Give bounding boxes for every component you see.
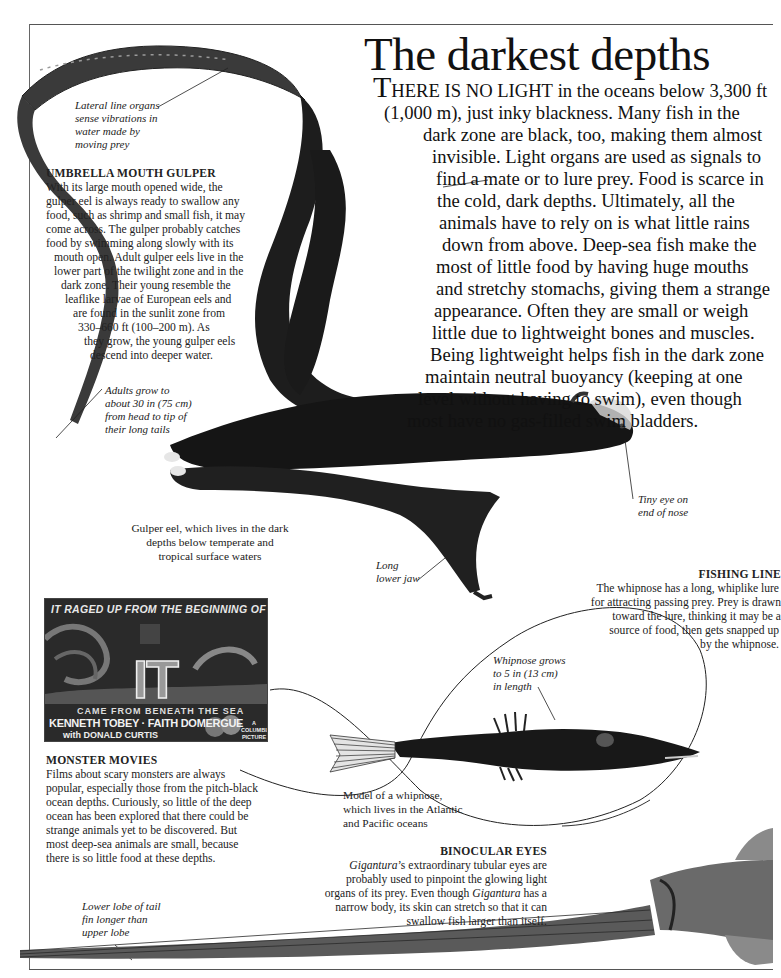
intro-line: appearance. Often they are small or weig… (434, 300, 748, 322)
body-line: popular, especially those from the pitch… (46, 782, 258, 796)
body-line: swallow fish larger than itself. (407, 915, 548, 929)
annotation-line: end of nose (638, 506, 688, 519)
body-line: for attracting passing prey. Prey is dra… (591, 596, 781, 610)
body-line: 330–660 ft (100–200 m). As (78, 321, 210, 335)
body-text: ’s extraordinary tubular eyes are (398, 859, 547, 872)
intro-line: little due to lightweight bones and musc… (432, 322, 755, 344)
drop-cap: T (373, 70, 391, 103)
caption-line: Model of a whipnose, (343, 788, 442, 802)
intro-line: the cold, dark depths. Ultimately, all t… (437, 190, 735, 212)
annotation-line: fin longer than (82, 913, 147, 926)
intro-line: level without having to swim), even thou… (418, 388, 742, 410)
poster-subtitle: CAME FROM BENEATH THE SEA (77, 706, 244, 716)
poster-costar: with DONALD CURTIS (63, 730, 158, 740)
body-line: narrow body, its skin can stretch so tha… (335, 901, 547, 915)
annotation-line: about 30 in (75 cm) (105, 397, 192, 410)
annotation-line: Lateral line organs (75, 99, 160, 112)
body-line: food by swimming along slowly with its (46, 237, 233, 251)
intro-line: invisible. Light organs are used as sign… (432, 146, 761, 168)
annotation-line: moving prey (75, 138, 129, 151)
body-line: mouth open. Adult gulper eels live in th… (54, 251, 243, 265)
annotation-line: sense vibrations in (75, 112, 158, 125)
annotation-line: Adults grow to (105, 384, 169, 397)
annotation-line: Lower lobe of tail (82, 900, 161, 913)
intro-line: THERE IS NO LIGHT in the oceans below 3,… (373, 72, 767, 102)
body-line: Gigantura’s extraordinary tubular eyes a… (349, 859, 547, 873)
body-line: probably used to pinpoint the glowing li… (346, 873, 547, 887)
body-line: are found in the sunlit zone from (73, 307, 225, 321)
movie-poster-image: IT RAGED UP FROM THE BEGINNING OF TIME I… (44, 598, 268, 742)
intro-line: and stretchy stomachs, giving them a str… (436, 278, 770, 300)
poster-tagline: IT RAGED UP FROM THE BEGINNING OF TIME (51, 603, 268, 615)
intro-text: in the oceans below 3,300 ft (553, 80, 767, 101)
annotation-line: upper lobe (82, 926, 129, 939)
body-line: The whipnose has a long, whiplike lure (596, 582, 779, 596)
intro-line: dark zone are black, too, making them al… (423, 124, 762, 146)
poster-stars: KENNETH TOBEY · FAITH DOMERGUE (49, 717, 243, 729)
binocular-box-heading: BINOCULAR EYES (440, 845, 547, 859)
annotation-line: Whipnose grows (493, 654, 566, 667)
intro-line: most of little food by having huge mouth… (436, 256, 748, 278)
body-text: has a (521, 887, 547, 900)
fishing-line-heading: FISHING LINE (698, 568, 781, 582)
body-line: most deep-sea animals are small, because (46, 838, 239, 852)
body-line: strange animals yet to be discovered. Bu… (46, 824, 237, 838)
annotation-line: Tiny eye on (638, 493, 688, 506)
caption-line: Gulper eel, which lives in the dark (110, 521, 310, 535)
body-line: With its large mouth opened wide, the (46, 181, 223, 195)
annotation-line: their long tails (105, 423, 170, 436)
species-name: Gigantura (472, 887, 520, 900)
poster-studio: A COLUMBIA PICTURE (241, 720, 267, 741)
whipnose-illustration (330, 712, 700, 781)
caption-line: which lives in the Atlantic (343, 802, 463, 816)
page-title: The darkest depths (364, 31, 710, 78)
body-line: Films about scary monsters are always (46, 768, 225, 782)
body-line: lower part of the twilight zone and in t… (54, 265, 243, 279)
body-line: dark zone. Their young resemble the (61, 279, 231, 293)
annotation-line: from head to tip of (105, 410, 186, 423)
body-line: descend into deeper water. (90, 349, 213, 363)
intro-line: Being lightweight helps fish in the dark… (430, 344, 764, 366)
body-line: they grow, the young gulper eels (84, 335, 235, 349)
body-line: source of food, then gets snapped up (609, 624, 779, 638)
caption-line: and Pacific oceans (343, 816, 428, 830)
body-line: gulper eel is always ready to swallow an… (46, 195, 240, 209)
intro-line: most have no gas-filled swim bladders. (407, 410, 698, 432)
species-name: Gigantura (349, 859, 397, 872)
annotation-line: Long (376, 559, 399, 572)
caption-line: depths below temperate and (110, 535, 310, 549)
gulper-box-heading: UMBRELLA MOUTH GULPER (46, 167, 216, 181)
body-line: toward the lure, thinking it may be a (612, 610, 781, 624)
body-text: organs of its prey. Even though (325, 887, 472, 900)
body-line: leaflike larvae of European eels and (65, 293, 231, 307)
body-line: food, such as shrimp and small fish, it … (46, 209, 245, 223)
intro-line: maintain neutral buoyancy (keeping at on… (425, 366, 743, 388)
annotation-line: to 5 in (13 cm) (493, 667, 558, 680)
body-line: organs of its prey. Even though Gigantur… (325, 887, 547, 901)
monster-box-heading: MONSTER MOVIES (46, 754, 157, 768)
poster-title: IT (133, 659, 177, 699)
body-line: ocean depths. Curiously, so little of th… (46, 796, 252, 810)
intro-line: find a mate or to lure prey. Food is sca… (436, 168, 764, 190)
intro-line: down from above. Deep-sea fish make the (442, 234, 756, 256)
body-line: there is so little food at these depths. (46, 852, 215, 866)
intro-line: (1,000 m), just inky blackness. Many fis… (384, 102, 740, 124)
body-line: ocean has been explored that there could… (46, 810, 248, 824)
annotation-line: water made by (75, 125, 140, 138)
body-line: come across. The gulper probably catches (46, 223, 240, 237)
caption-line: tropical surface waters (110, 549, 310, 563)
annotation-line: lower jaw (376, 572, 420, 585)
annotation-line: in length (493, 680, 532, 693)
intro-line: animals have to rely on is what little r… (439, 212, 750, 234)
body-line: by the whipnose. (700, 638, 779, 652)
intro-small-caps: HERE IS NO LIGHT (391, 80, 553, 101)
whipnose-lure-line (240, 608, 706, 826)
